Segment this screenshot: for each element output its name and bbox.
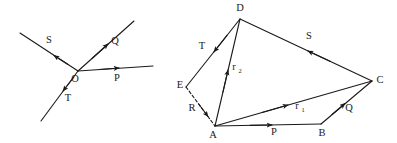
vector-q-arrow-right (332, 104, 345, 115)
right-panel-group: P Q S T R r 1 r 2 (177, 2, 384, 140)
vector-diagram-figure: S Q P T O P Q (0, 0, 397, 143)
resultant-label-r2: r (232, 61, 236, 72)
resultant-label-r1-subscript: 1 (301, 106, 304, 113)
vector-label-r-right: R (188, 102, 195, 113)
resultant-r1-arrow (262, 105, 288, 113)
vector-label-p-left: P (114, 72, 120, 83)
vector-label-s-left: S (46, 34, 52, 45)
vertex-label-e: E (177, 79, 183, 90)
left-panel-group: S Q P T O (20, 21, 153, 121)
vertex-label-b: B (318, 127, 325, 138)
vector-label-t-left: T (65, 92, 72, 103)
origin-label-o: O (71, 73, 79, 84)
vector-p-arrow-left (99, 68, 119, 70)
resultant-label-r2-subscript: 2 (238, 67, 241, 74)
vector-s-arrow-right (308, 51, 330, 61)
vertex-label-a: A (209, 129, 217, 140)
vector-label-q-right: Q (345, 102, 353, 113)
diagram-canvas: S Q P T O P Q (0, 0, 397, 143)
vector-label-t-right: T (199, 40, 206, 51)
vector-label-s-right: S (306, 30, 312, 41)
vertex-label-d: D (236, 2, 244, 13)
vector-label-p-right: P (271, 126, 277, 137)
vertex-label-c: C (376, 74, 383, 85)
resultant-r2-arrow (223, 70, 228, 92)
resultant-label-r1: r (295, 100, 299, 111)
vector-r-arrow-right (199, 105, 208, 117)
vector-s-line-right (240, 19, 372, 81)
vector-label-q-left: Q (111, 35, 119, 46)
vector-q-arrow-left (92, 44, 108, 59)
vector-t-arrow-right (214, 35, 227, 51)
vector-s-arrow-left (54, 56, 68, 65)
